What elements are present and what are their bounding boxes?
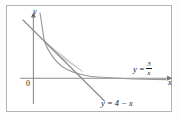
y-axis-label: y bbox=[33, 8, 37, 16]
hyperbola-numerator: 3 bbox=[146, 61, 152, 68]
curve-label-line: y = 4 − x bbox=[101, 99, 133, 108]
plot-canvas bbox=[0, 0, 179, 121]
curve-label-hyperbola: y = 3 x bbox=[133, 61, 152, 77]
figure-container: y = 3 x y = 4 − x y x 0 bbox=[0, 0, 179, 121]
origin-label: 0 bbox=[26, 80, 30, 88]
line-linear bbox=[23, 20, 105, 101]
hyperbola-fraction: 3 x bbox=[146, 61, 152, 77]
x-axis-label: x bbox=[168, 79, 172, 87]
hyperbola-label-lhs: y = bbox=[133, 65, 145, 74]
hyperbola-denominator: x bbox=[146, 70, 151, 77]
